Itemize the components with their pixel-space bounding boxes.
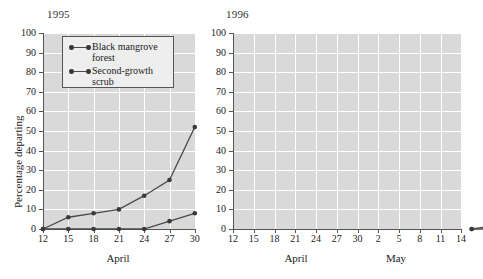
legend-marker-black-mangrove-forest bbox=[68, 42, 92, 53]
legend-label-black-mangrove-forest: Black mangroveforest bbox=[92, 41, 158, 63]
panel-1995: 1995 Percentage departing 100 90 80 70 bbox=[0, 0, 218, 279]
legend-marker-second-growth-scrub bbox=[68, 66, 92, 77]
panel-1996: 1996 100 90 80 70 60 50 bbox=[218, 0, 483, 279]
line-black-mangrove-forest-1996 bbox=[472, 33, 483, 229]
series-group-1996 bbox=[218, 0, 483, 279]
line-second-growth-scrub-1996 bbox=[472, 33, 483, 229]
line-black-mangrove-forest-1995 bbox=[43, 127, 195, 229]
legend-label-line1-bmf: Black mangrove bbox=[92, 41, 158, 52]
legend-item-black-mangrove-forest: Black mangroveforest bbox=[68, 41, 168, 63]
points-second-growth-scrub-1996 bbox=[469, 31, 483, 232]
legend-label-second-growth-scrub: Second-growthscrub bbox=[92, 65, 153, 87]
points-black-mangrove-forest-1995 bbox=[41, 125, 197, 232]
legend: Black mangroveforest Second-growthscrub bbox=[62, 36, 174, 88]
points-second-growth-scrub-1995 bbox=[41, 211, 197, 231]
legend-label-line1-sgs: Second-growth bbox=[92, 65, 153, 76]
points-black-mangrove-forest-1996 bbox=[469, 31, 483, 232]
legend-label-line2-sgs: scrub bbox=[92, 76, 114, 87]
legend-item-second-growth-scrub: Second-growthscrub bbox=[68, 65, 168, 87]
legend-label-line2-bmf: forest bbox=[92, 52, 115, 63]
line-second-growth-scrub-1995 bbox=[43, 213, 195, 229]
figure-two-panel-line-chart: 1995 Percentage departing 100 90 80 70 bbox=[0, 0, 483, 279]
